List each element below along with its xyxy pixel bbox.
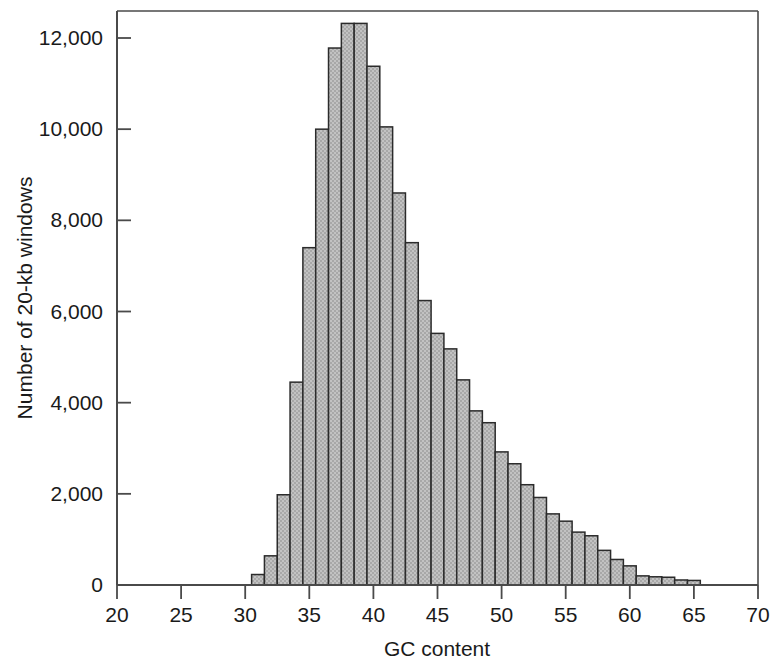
- histogram-bar: [329, 48, 342, 585]
- y-tick-label: 4,000: [50, 391, 103, 414]
- x-axis-ticks: 2025303540455055606570: [105, 585, 769, 626]
- y-tick-label: 8,000: [50, 208, 103, 231]
- histogram-bar: [431, 333, 444, 585]
- x-axis: 2025303540455055606570: [105, 585, 769, 626]
- y-tick-label: 12,000: [39, 26, 103, 49]
- histogram-bar: [508, 464, 521, 585]
- histogram-bar: [546, 514, 559, 585]
- x-tick-label: 70: [746, 603, 769, 626]
- histogram-bar: [457, 380, 470, 585]
- histogram-bar: [393, 193, 406, 585]
- x-tick-label: 30: [234, 603, 257, 626]
- histogram-bar: [636, 576, 649, 585]
- x-tick-label: 20: [105, 603, 128, 626]
- histogram-bar: [290, 382, 303, 585]
- histogram-bar: [354, 23, 367, 585]
- x-tick-label: 50: [490, 603, 513, 626]
- y-tick-label: 0: [91, 573, 103, 596]
- histogram-bar: [316, 129, 329, 585]
- histogram-figure: 02,0004,0006,0008,00010,00012,000 202530…: [0, 0, 778, 670]
- gc-content-histogram: 02,0004,0006,0008,00010,00012,000 202530…: [0, 0, 778, 670]
- histogram-bar: [534, 497, 547, 585]
- x-tick-label: 35: [298, 603, 321, 626]
- histogram-bar: [559, 521, 572, 585]
- x-axis-title: GC content: [384, 637, 490, 660]
- histogram-bar: [623, 566, 636, 585]
- histogram-bar: [264, 556, 277, 585]
- y-tick-label: 10,000: [39, 117, 103, 140]
- x-tick-label: 60: [618, 603, 641, 626]
- histogram-bar: [611, 559, 624, 585]
- histogram-bar: [482, 423, 495, 585]
- histogram-bar: [418, 301, 431, 585]
- y-axis-title: Number of 20-kb windows: [13, 177, 36, 420]
- histogram-bar: [252, 575, 265, 585]
- x-tick-label: 25: [169, 603, 192, 626]
- x-tick-label: 45: [426, 603, 449, 626]
- histogram-bar: [585, 536, 598, 585]
- x-tick-label: 40: [362, 603, 385, 626]
- x-tick-label: 55: [554, 603, 577, 626]
- histogram-bar: [380, 127, 393, 585]
- histogram-bar: [470, 411, 483, 585]
- y-tick-label: 6,000: [50, 300, 103, 323]
- histogram-bars: [252, 23, 701, 585]
- histogram-bar: [495, 452, 508, 585]
- histogram-bar: [367, 66, 380, 585]
- histogram-bar: [277, 495, 290, 585]
- histogram-bar: [598, 550, 611, 585]
- y-axis: 02,0004,0006,0008,00010,00012,000: [39, 11, 131, 596]
- histogram-bar: [444, 349, 457, 585]
- histogram-bar: [341, 23, 354, 585]
- histogram-bar: [662, 577, 675, 585]
- histogram-bar: [405, 243, 418, 585]
- histogram-bar: [303, 248, 316, 585]
- y-tick-label: 2,000: [50, 482, 103, 505]
- histogram-bar: [649, 577, 662, 585]
- histogram-bar: [572, 532, 585, 585]
- x-tick-label: 65: [682, 603, 705, 626]
- histogram-bar: [521, 485, 534, 585]
